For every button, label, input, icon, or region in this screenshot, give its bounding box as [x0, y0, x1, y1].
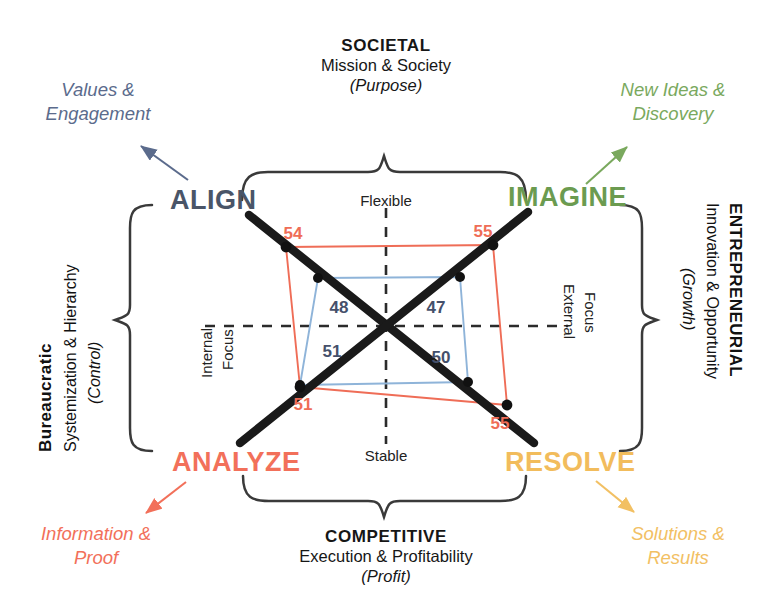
brace-bottom — [243, 476, 526, 517]
cvf-diagram-canvas: SOCIETAL Mission & Society (Purpose) COM… — [0, 0, 781, 605]
axis-block-top: SOCIETAL Mission & Society (Purpose) — [321, 36, 451, 95]
axis-left-head: Bureaucratic — [36, 343, 55, 452]
quadrant-label-analyze[interactable]: ANALYZE — [172, 447, 301, 479]
axis-block-right: ENTREPRENEURIAL — [725, 203, 745, 377]
arrow-imagine-callout — [586, 147, 627, 184]
callout-imagine: New Ideas &Discovery — [621, 78, 726, 125]
axis-bottom-note: (Profit) — [299, 567, 472, 586]
quadrant-label-resolve[interactable]: RESOLVE — [505, 447, 636, 479]
pole-label-internal-focus-line1: Internal — [198, 328, 216, 378]
value-inner-resolve: 50 — [432, 348, 451, 368]
arrow-analyze-callout — [146, 482, 186, 513]
brace-left — [115, 205, 152, 451]
pole-label-external-focus-line1: External — [560, 284, 578, 339]
value-inner-imagine: 47 — [427, 298, 446, 318]
value-inner-analyze: 51 — [323, 342, 342, 362]
axis-left-sub: Systemization & Hierarchy — [62, 264, 79, 452]
arrow-resolve-callout — [596, 481, 634, 512]
axis-left-note-wrap: (Control) — [86, 342, 105, 404]
brace-right — [620, 205, 657, 451]
value-outer-analyze: 51 — [294, 395, 313, 415]
axis-left-note: (Control) — [86, 342, 103, 404]
value-outer-resolve: 55 — [491, 414, 510, 434]
callout-align: Values &Engagement — [46, 78, 151, 125]
quadrant-label-align[interactable]: ALIGN — [170, 185, 257, 217]
quadrant-label-imagine[interactable]: IMAGINE — [508, 182, 627, 214]
axis-bottom-head: COMPETITIVE — [299, 527, 472, 547]
axis-top-note: (Purpose) — [321, 76, 451, 95]
callout-resolve: Solutions &Results — [631, 522, 725, 569]
pole-label-flexible: Flexible — [360, 192, 412, 210]
axis-bottom-sub: Execution & Profitability — [299, 547, 472, 566]
value-outer-align: 54 — [284, 224, 303, 244]
callout-analyze: Information &Proof — [41, 522, 151, 569]
axis-top-sub: Mission & Society — [321, 56, 451, 75]
axis-right-sub-wrap: Innovation & Opportunity — [702, 203, 721, 379]
axis-right-head: ENTREPRENEURIAL — [726, 203, 745, 377]
axis-right-note: (Growth) — [680, 268, 697, 330]
value-inner-align: 48 — [330, 298, 349, 318]
pole-label-internal-focus-line2: Focus — [219, 329, 237, 370]
axis-right-sub: Innovation & Opportunity — [704, 203, 721, 379]
pole-label-stable: Stable — [365, 447, 408, 465]
arrow-align-callout — [141, 146, 188, 180]
axis-left-sub-wrap: Systemization & Hierarchy — [62, 264, 81, 452]
pole-label-external-focus-line2: Focus — [581, 292, 599, 333]
axis-right-note-wrap: (Growth) — [678, 268, 697, 330]
axis-top-head: SOCIETAL — [321, 36, 451, 56]
value-outer-imagine: 55 — [474, 222, 493, 242]
axis-block-left: Bureaucratic — [36, 343, 56, 452]
axis-block-bottom: COMPETITIVE Execution & Profitability (P… — [299, 527, 472, 586]
